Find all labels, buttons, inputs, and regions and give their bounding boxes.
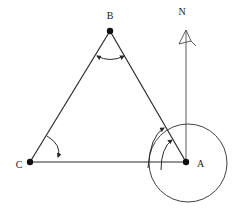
vertex-dot-a xyxy=(183,159,189,165)
label-vertex-c: C xyxy=(16,159,23,170)
segment-ba xyxy=(110,31,186,162)
bearing-diagram-svg: A B C N xyxy=(0,0,238,213)
vertex-dot-c xyxy=(27,159,33,165)
angle-arc-c xyxy=(47,136,59,157)
label-vertex-a: A xyxy=(197,158,205,169)
label-vertex-b: B xyxy=(107,10,114,21)
angle-arc-a-inner xyxy=(161,140,172,170)
vertex-dot-b xyxy=(107,28,113,34)
north-arrow-tail xyxy=(191,41,196,46)
label-north: N xyxy=(178,6,185,17)
north-arrow-flag-icon xyxy=(179,30,191,44)
segment-cb xyxy=(30,31,110,162)
bearing-diagram-canvas: A B C N xyxy=(0,0,238,213)
angle-arc-b xyxy=(97,56,124,60)
